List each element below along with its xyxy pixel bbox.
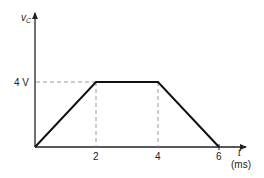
- x-tick-6: 6: [216, 151, 222, 162]
- x-tick-2: 2: [93, 151, 99, 162]
- x-tick-4: 4: [155, 151, 161, 162]
- vc-waveform: [35, 82, 219, 147]
- y-axis-label: vC: [21, 12, 32, 24]
- x-axis-label: t: [238, 147, 242, 158]
- x-axis-unit: (ms): [231, 159, 251, 170]
- y-tick-4v: 4 V: [14, 77, 29, 88]
- voltage-waveform-diagram: vC 4 V 2 4 6 t (ms): [0, 0, 264, 178]
